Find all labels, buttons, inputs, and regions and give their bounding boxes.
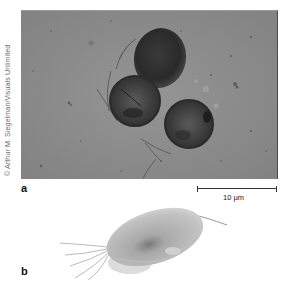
figure: © Arthur M. Siegelman/Visuals Unlimited [0,0,286,291]
scale-bar-tick-left [197,186,198,192]
scale-bar-tick-right [276,186,277,192]
micrograph-image [21,11,277,179]
photo-credit: © Arthur M. Siegelman/Visuals Unlimited [3,45,12,176]
illustration-panel-b [55,200,235,291]
panel-label-b: b [21,265,28,277]
scale-bar-line [197,188,277,189]
algal-cell-illustration [55,200,235,291]
panel-label-a: a [21,182,27,194]
scale-bar [197,186,277,192]
micrograph-panel-a [21,10,278,179]
